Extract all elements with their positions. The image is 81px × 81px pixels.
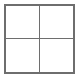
grid-cell-r1c2[interactable] [40,6,74,39]
figure-canvas [0,0,81,81]
grid-frame [4,4,75,74]
grid-cell-r2c1[interactable] [6,39,40,72]
grid-cell-r2c2-label [40,39,74,72]
grid-cell-r1c1-label [6,6,39,38]
grid-cell-r2c1-label [6,39,39,72]
grid-cell-r1c1[interactable] [6,6,40,39]
grid-cell-r1c2-label [40,6,74,38]
grid-cell-r2c2[interactable] [40,39,74,72]
